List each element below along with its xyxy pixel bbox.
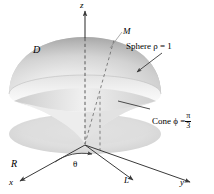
solid-d-label: D	[33, 45, 40, 55]
region-r-label: R	[11, 159, 17, 169]
theta-angle-label: θ	[73, 160, 77, 169]
cone-equation-prefix: Cone ϕ =	[152, 116, 185, 126]
ray-l-label: L	[124, 176, 129, 185]
x-axis-label: x	[9, 178, 13, 187]
cone-angle-denominator: 3	[185, 122, 191, 130]
sphere-equation-label: Sphere ρ = 1	[126, 42, 172, 51]
solid-region-diagram	[0, 0, 214, 194]
cone-angle-fraction: π3	[185, 104, 191, 130]
y-axis-label: y	[180, 178, 184, 187]
segment-m-label: M	[123, 27, 131, 36]
cone-equation-label: Cone ϕ = π3	[152, 104, 191, 130]
z-axis-label: z	[80, 1, 84, 10]
y-axis	[85, 145, 190, 182]
